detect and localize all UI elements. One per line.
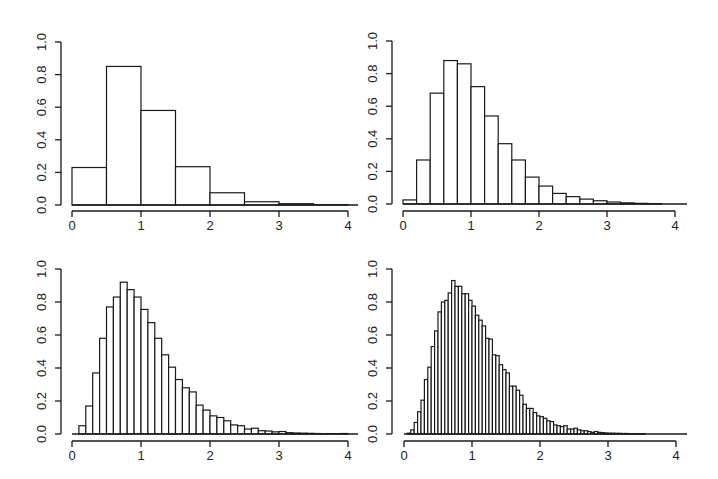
y-tick-label: 0.6 (365, 326, 380, 344)
x-tick-label: 4 (344, 448, 351, 463)
histogram-bar (72, 168, 107, 205)
y-tick-label: 0.6 (365, 97, 380, 115)
histogram-bar (231, 425, 238, 434)
x-tick-label: 1 (468, 448, 475, 463)
y-tick-label: 0.2 (365, 392, 380, 410)
y-tick-label: 1.0 (365, 32, 380, 50)
y-tick-label: 0.6 (34, 326, 49, 344)
histogram-bar (217, 418, 224, 435)
y-tick-label: 0.0 (365, 195, 380, 213)
x-tick-label: 0 (68, 218, 75, 233)
histogram-panel-top-left: 0.00.20.40.60.81.001234 (34, 33, 358, 233)
histogram-panel-bottom-left: 0.00.20.40.60.81.001234 (34, 260, 358, 463)
histogram-bar (539, 186, 553, 204)
x-axis: 01234 (400, 441, 679, 463)
histogram-bar (485, 116, 499, 204)
histogram-bar (134, 297, 141, 434)
x-tick-label: 0 (68, 448, 75, 463)
x-axis: 01234 (68, 441, 351, 463)
x-axis: 01234 (68, 211, 351, 233)
histogram-bar (457, 64, 471, 204)
x-tick-label: 3 (275, 218, 282, 233)
y-tick-label: 0.4 (34, 359, 49, 377)
x-tick-label: 1 (467, 218, 474, 233)
y-tick-label: 0.2 (34, 163, 49, 181)
histogram-panel-top-right: 0.00.20.40.60.81.001234 (365, 32, 687, 233)
x-tick-label: 2 (536, 448, 543, 463)
y-tick-label: 1.0 (365, 260, 380, 278)
x-tick-label: 3 (275, 448, 282, 463)
histogram-bars (407, 281, 645, 434)
y-tick-label: 1.0 (34, 260, 49, 278)
y-axis: 0.00.20.40.60.81.0 (34, 33, 61, 214)
y-tick-label: 0.0 (34, 425, 49, 443)
histogram-bar (196, 405, 203, 434)
y-tick-label: 0.4 (365, 130, 380, 148)
y-tick-label: 0.8 (365, 293, 380, 311)
histogram-figure: 0.00.20.40.60.81.001234 0.00.20.40.60.81… (0, 0, 718, 479)
histogram-bar (251, 428, 258, 434)
x-tick-label: 0 (400, 448, 407, 463)
y-tick-label: 0.0 (34, 196, 49, 214)
histogram-bar (93, 373, 100, 434)
y-tick-label: 0.2 (34, 392, 49, 410)
y-tick-label: 0.2 (365, 162, 380, 180)
x-tick-label: 0 (399, 218, 406, 233)
y-tick-label: 1.0 (34, 33, 49, 51)
histogram-bar (86, 406, 93, 434)
histogram-bars (72, 66, 348, 205)
histogram-bar (210, 193, 245, 205)
y-axis: 0.00.20.40.60.81.0 (365, 32, 392, 213)
histogram-bar (498, 144, 512, 204)
histogram-bar (189, 392, 196, 434)
x-tick-label: 1 (137, 218, 144, 233)
histogram-bar (580, 199, 594, 204)
y-tick-label: 0.4 (34, 131, 49, 149)
histogram-bar (79, 426, 86, 434)
histogram-bar (512, 160, 526, 204)
histogram-bar (430, 93, 444, 204)
histogram-bar (169, 367, 176, 434)
histogram-bar (525, 177, 539, 204)
histogram-bar (176, 380, 183, 434)
histogram-bar (120, 282, 127, 434)
x-tick-label: 4 (344, 218, 351, 233)
x-tick-label: 1 (137, 448, 144, 463)
x-tick-label: 2 (535, 218, 542, 233)
histogram-bar (148, 323, 155, 434)
y-axis: 0.00.20.40.60.81.0 (365, 260, 392, 443)
histogram-bar (203, 410, 210, 434)
histogram-bar (238, 426, 245, 434)
histogram-bar (107, 66, 142, 205)
x-tick-label: 3 (604, 448, 611, 463)
histogram-bar (100, 338, 107, 434)
histogram-bar (245, 429, 252, 434)
histogram-bar (141, 110, 176, 205)
histogram-bar (417, 160, 431, 204)
x-tick-label: 4 (672, 448, 679, 463)
histogram-bar (155, 338, 162, 434)
y-tick-label: 0.6 (34, 98, 49, 116)
y-tick-label: 0.8 (365, 65, 380, 83)
histogram-bar (210, 416, 217, 434)
histogram-bar (471, 87, 485, 204)
x-tick-label: 3 (603, 218, 610, 233)
y-tick-label: 0.8 (34, 293, 49, 311)
histogram-bar (162, 355, 169, 434)
histogram-bar (566, 197, 580, 204)
x-tick-label: 2 (206, 218, 213, 233)
histogram-panel-bottom-right: 0.00.20.40.60.81.001234 (365, 260, 687, 463)
x-tick-label: 4 (671, 218, 678, 233)
histogram-bars (79, 282, 348, 434)
y-tick-label: 0.4 (365, 359, 380, 377)
histogram-bar (141, 309, 148, 434)
x-axis: 01234 (399, 211, 678, 233)
histogram-bar (444, 61, 458, 204)
histogram-bar (176, 167, 211, 205)
histogram-bar (127, 290, 134, 434)
y-axis: 0.00.20.40.60.81.0 (34, 260, 61, 443)
histogram-bar (113, 297, 120, 434)
x-tick-label: 2 (206, 448, 213, 463)
histogram-bar (107, 307, 114, 434)
histogram-bar (224, 421, 231, 434)
